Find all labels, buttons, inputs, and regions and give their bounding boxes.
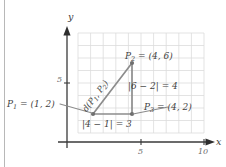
point-label-p1-subscript: 1 <box>13 103 17 111</box>
y-axis-label: y <box>68 12 73 22</box>
diagram-canvas <box>0 0 226 167</box>
point-label-p3-subscript: 3 <box>150 106 154 114</box>
point-label-p2-coords: = (4, 6) <box>138 51 173 61</box>
x-axis-label: x <box>216 137 221 147</box>
distance-formula-figure: y x 5 10 5 P1 = (1, 2) P2 = (4, 6) P3 = … <box>0 0 226 167</box>
vertical-side-annotation: |6 − 2| = 4 <box>128 82 178 91</box>
x-tick-label-10: 10 <box>198 148 208 156</box>
y-axis-arrowhead <box>63 26 70 36</box>
x-axis-arrowhead <box>206 138 216 145</box>
point-label-p2-subscript: 2 <box>131 55 135 63</box>
point-label-p3: P3 = (4, 2) <box>144 103 192 113</box>
point-label-p2: P2 = (4, 6) <box>125 52 173 62</box>
point-label-p1: P1 = (1, 2) <box>7 100 55 110</box>
x-tick-label-5: 5 <box>138 148 143 156</box>
point-label-p1-coords: = (1, 2) <box>20 99 55 109</box>
point-label-p3-coords: = (4, 2) <box>157 102 192 112</box>
horizontal-side-annotation: |4 − 1| = 3 <box>82 120 132 129</box>
y-tick-label-5: 5 <box>57 76 62 84</box>
